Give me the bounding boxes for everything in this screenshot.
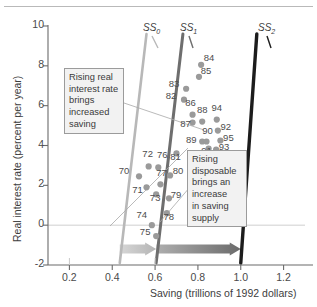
curve-label-ss2: SS2: [258, 22, 275, 36]
x-tick-label: 0.4: [96, 272, 128, 284]
y-tick-label: 10: [16, 19, 44, 31]
y-tick-label: 0: [16, 218, 44, 230]
data-point-label-92: 92: [217, 122, 235, 133]
curve-label-subscript: 1: [193, 28, 197, 35]
data-point-label-70: 70: [115, 166, 133, 177]
data-point-label-74: 74: [133, 210, 151, 221]
data-point-label-87: 87: [177, 119, 195, 130]
data-point-label-81: 81: [167, 152, 185, 163]
data-point-label-73: 73: [146, 193, 164, 204]
data-point-label-77: 77: [152, 168, 170, 179]
curve-label-name: SS: [258, 22, 271, 33]
data-point-label-95: 95: [219, 133, 237, 144]
callout-rising-real-interest-rate: Rising real interest rate brings increas…: [64, 68, 124, 134]
curve-label-name: SS: [180, 22, 193, 33]
x-tick-label: 0.2: [53, 272, 85, 284]
y-tick-label: 2: [16, 178, 44, 190]
data-point-label-84: 84: [200, 53, 218, 64]
y-tick-label: 8: [16, 59, 44, 71]
data-point-label-83: 83: [165, 79, 183, 90]
data-point-label-90: 90: [198, 126, 216, 137]
callout-rising-disposable-income: Rising disposable brings an increase in …: [187, 150, 247, 227]
data-point-label-75: 75: [136, 227, 154, 238]
economics-saving-supply-chart: Real interest rate (percent per year) Sa…: [0, 0, 317, 307]
y-tick-label: 6: [16, 99, 44, 111]
x-tick-label: 1.2: [268, 272, 300, 284]
data-point-label-82: 82: [162, 91, 180, 102]
x-tick-label: 0.6: [139, 272, 171, 284]
data-point-label-71: 71: [129, 185, 147, 196]
data-point-label-78: 78: [160, 212, 178, 223]
x-axis-title: Saving (trillions of 1992 dollars): [150, 288, 297, 300]
x-tick-label: 0.8: [182, 272, 214, 284]
data-point-label-85: 85: [197, 66, 215, 77]
curve-label-subscript: 2: [271, 28, 275, 35]
x-tick-label: 1.0: [225, 272, 257, 284]
data-point-label-80: 80: [169, 166, 187, 177]
data-point-label-94: 94: [208, 103, 226, 114]
y-tick-label: 4: [16, 139, 44, 151]
curve-label-subscript: 0: [156, 28, 160, 35]
curve-label-ss0: SS0: [143, 22, 160, 36]
data-point-label-79: 79: [167, 190, 185, 201]
y-tick-label: -2: [16, 258, 44, 270]
curve-label-name: SS: [143, 22, 156, 33]
curve-label-ss1: SS1: [180, 22, 197, 36]
